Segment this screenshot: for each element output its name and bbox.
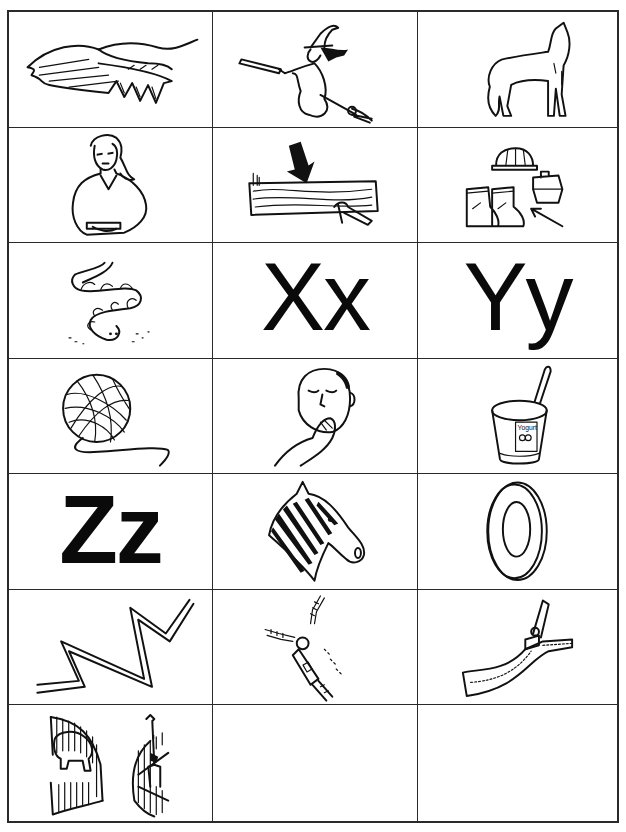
card-wood: [213, 128, 418, 244]
zipper-icon: [418, 590, 617, 705]
card-yogurt: Yogurt: [418, 359, 617, 475]
witch-icon: [213, 12, 417, 127]
letter-xx: Xx: [261, 249, 369, 345]
card-work-boots: [418, 128, 617, 244]
card-yarn: [9, 359, 213, 475]
letter-yy: Yy: [463, 249, 571, 345]
wing-icon: [9, 12, 212, 127]
woman-icon: [9, 128, 212, 243]
work-boots-icon: [418, 128, 617, 243]
card-wolf: [418, 12, 617, 128]
card-zipper-pull: [213, 590, 418, 706]
picture-card-grid: Xx Yy Yogurt: [7, 10, 619, 823]
zero-icon: [418, 474, 617, 589]
card-woman: [9, 128, 213, 244]
letter-zz: Zz: [59, 482, 162, 578]
wood-icon: [213, 128, 417, 243]
yarn-icon: [9, 359, 212, 474]
card-zebra: [213, 474, 418, 590]
card-zero: [418, 474, 617, 590]
card-empty-2: [418, 705, 617, 821]
card-wing: [9, 12, 213, 128]
yawn-icon: [213, 359, 417, 474]
zigzag-icon: [9, 590, 212, 705]
worm-icon: [9, 243, 212, 358]
yogurt-icon: Yogurt: [418, 359, 617, 474]
card-letter-zz: Zz: [9, 474, 213, 590]
card-empty-1: [213, 705, 418, 821]
card-zipper: [418, 590, 617, 706]
card-zoo: [9, 705, 213, 821]
zebra-icon: [213, 474, 417, 589]
wolf-icon: [418, 12, 617, 127]
card-letter-xx: Xx: [213, 243, 418, 359]
yogurt-label: Yogurt: [518, 424, 538, 432]
card-letter-yy: Yy: [418, 243, 617, 359]
zipper-pull-icon: [213, 590, 417, 705]
card-yawn: [213, 359, 418, 475]
zoo-icon: [9, 705, 212, 821]
card-zigzag: [9, 590, 213, 706]
card-worm: [9, 243, 213, 359]
card-witch: [213, 12, 418, 128]
